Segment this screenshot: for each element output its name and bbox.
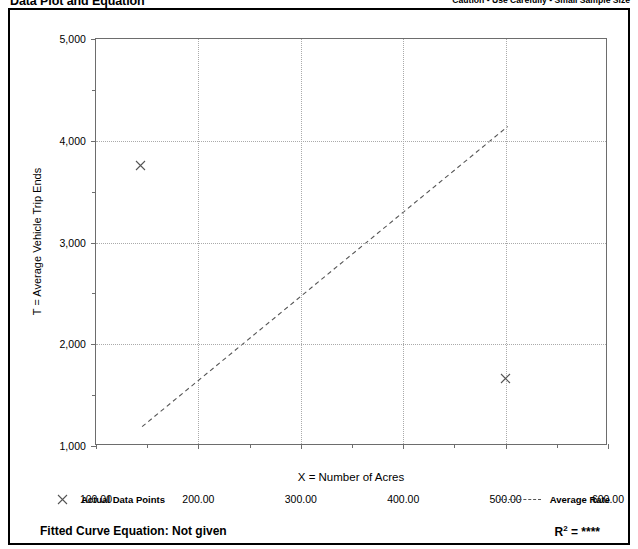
gridline-horizontal xyxy=(96,344,606,345)
x-axis-tick xyxy=(506,444,507,449)
data-point-marker xyxy=(135,160,146,171)
x-axis-minor-tick xyxy=(250,444,251,448)
x-axis-tick xyxy=(403,444,404,449)
x-axis-minor-tick xyxy=(352,444,353,448)
average-rate-trend-line xyxy=(142,127,508,427)
gridline-vertical xyxy=(301,39,302,444)
y-axis-tick xyxy=(91,344,96,345)
gridline-horizontal xyxy=(96,141,606,142)
y-axis-minor-tick xyxy=(92,293,96,294)
y-axis-tick-label: 4,000 xyxy=(60,135,86,147)
y-axis-title: T = Average Vehicle Trip Ends xyxy=(30,38,44,445)
gridline-vertical xyxy=(403,39,404,444)
chart-container: T = Average Vehicle Trip Ends 1,0002,000… xyxy=(0,0,638,549)
legend-item-actual-data-points: Actual Data Points xyxy=(57,494,165,505)
y-axis-tick-label: 5,000 xyxy=(60,33,86,45)
r-squared-number: = **** xyxy=(571,525,600,539)
chart-legend: Actual Data Points Average Rate xyxy=(0,494,638,514)
x-axis-tick xyxy=(608,444,609,449)
x-axis-tick xyxy=(301,444,302,449)
r-squared-exponent: 2 xyxy=(563,524,567,533)
data-point-marker xyxy=(500,373,511,384)
dashed-line-icon xyxy=(499,499,541,500)
y-axis-tick-label: 3,000 xyxy=(60,237,86,249)
y-axis-tick-label: 1,000 xyxy=(60,440,86,452)
gridline-vertical xyxy=(198,39,199,444)
x-axis-tick xyxy=(96,444,97,449)
x-axis-title: X = Number of Acres xyxy=(95,471,607,483)
y-axis-tick xyxy=(91,39,96,40)
r-squared-letter: R xyxy=(555,525,564,539)
y-axis-tick-label: 2,000 xyxy=(60,338,86,350)
r-squared-value: R2 = **** xyxy=(555,524,601,539)
legend-item-average-rate: Average Rate xyxy=(499,494,610,505)
y-axis-minor-tick xyxy=(92,395,96,396)
y-axis-tick xyxy=(91,141,96,142)
gridline-horizontal xyxy=(96,243,606,244)
plot-area: 1,0002,0003,0004,0005,000100.00200.00300… xyxy=(95,38,607,445)
y-axis-minor-tick xyxy=(92,192,96,193)
x-marker-icon xyxy=(57,494,68,505)
x-axis-minor-tick xyxy=(557,444,558,448)
x-axis-minor-tick xyxy=(147,444,148,448)
y-axis-tick xyxy=(91,243,96,244)
trend-line-svg xyxy=(96,39,608,446)
legend-label-actual-data-points: Actual Data Points xyxy=(81,494,165,505)
chart-footer: Fitted Curve Equation: Not given R2 = **… xyxy=(0,524,638,546)
legend-label-average-rate: Average Rate xyxy=(550,494,610,505)
y-axis-minor-tick xyxy=(92,90,96,91)
x-axis-minor-tick xyxy=(454,444,455,448)
fitted-curve-equation: Fitted Curve Equation: Not given xyxy=(40,524,227,538)
x-axis-tick xyxy=(198,444,199,449)
